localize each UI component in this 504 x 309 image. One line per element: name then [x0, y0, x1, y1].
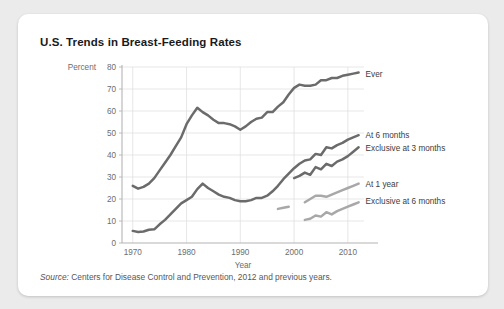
series-lines — [133, 73, 359, 233]
y-tick-label: 30 — [107, 173, 117, 182]
gridlines — [122, 67, 364, 243]
y-tick-label: 60 — [107, 107, 117, 116]
axis-titles: PercentYear — [68, 63, 252, 270]
series-labels: EverAt 6 monthsExclusive at 3 monthsAt 1… — [366, 70, 446, 207]
tick-labels: 0102030405060708019701980199020002010 — [107, 63, 358, 257]
series-label: At 1 year — [366, 180, 399, 189]
series-line — [305, 184, 359, 203]
x-tick-label: 2010 — [339, 248, 358, 257]
y-tick-label: 40 — [107, 151, 117, 160]
x-tick-label: 2000 — [285, 248, 304, 257]
series-line — [305, 202, 359, 220]
series-label: Exclusive at 3 months — [366, 144, 446, 153]
series-line — [133, 135, 359, 232]
line-chart-svg: 0102030405060708019701980199020002010 Ev… — [18, 14, 488, 296]
chart-card: U.S. Trends in Breast-Feeding Rates 0102… — [18, 14, 488, 296]
y-tick-label: 50 — [107, 129, 117, 138]
x-tick-label: 1970 — [124, 248, 143, 257]
x-axis-title: Year — [235, 261, 252, 270]
x-tick-label: 1990 — [231, 248, 250, 257]
series-label: Exclusive at 6 months — [366, 197, 446, 206]
chart-plot-area: 0102030405060708019701980199020002010 Ev… — [18, 14, 488, 296]
source-prefix: Source: — [40, 272, 69, 282]
series-line — [294, 147, 359, 178]
axes — [119, 65, 378, 243]
source-text: Centers for Disease Control and Preventi… — [71, 272, 332, 282]
series-label: At 6 months — [366, 131, 410, 140]
x-tick-label: 1980 — [177, 248, 196, 257]
source-note: Source: Centers for Disease Control and … — [40, 272, 332, 282]
y-tick-label: 0 — [111, 239, 116, 248]
series-label: Ever — [366, 70, 383, 79]
y-tick-label: 80 — [107, 63, 117, 72]
y-axis-title: Percent — [68, 63, 97, 72]
y-tick-label: 20 — [107, 195, 117, 204]
y-tick-label: 70 — [107, 85, 117, 94]
series-line — [133, 73, 359, 189]
series-line — [278, 207, 289, 209]
y-tick-label: 10 — [107, 217, 117, 226]
